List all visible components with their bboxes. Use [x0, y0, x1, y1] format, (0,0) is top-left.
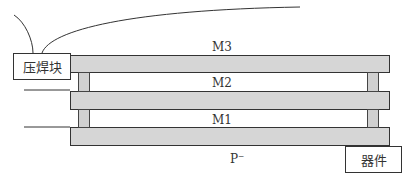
label-m1: M1 [212, 113, 232, 127]
label-substrate: P⁻ [230, 152, 244, 166]
device-label: 器件 [361, 150, 387, 169]
bond-wire-right [42, 7, 300, 53]
metal-layer-m1 [70, 127, 390, 146]
via-left-m2-m1 [78, 109, 90, 128]
label-m3: M3 [212, 40, 232, 54]
bond-wire-left [14, 15, 33, 53]
label-m2: M2 [212, 76, 232, 90]
bond-pad-box: 压焊块 [13, 53, 71, 80]
metal-layer-m2 [70, 91, 390, 110]
device-box: 器件 [345, 146, 402, 173]
bond-pad-label: 压焊块 [23, 57, 62, 76]
metal-layer-m3 [70, 55, 390, 73]
via-right-m3-m2 [367, 72, 379, 92]
via-left-m3-m2 [78, 72, 90, 92]
via-right-m2-m1 [367, 109, 379, 128]
